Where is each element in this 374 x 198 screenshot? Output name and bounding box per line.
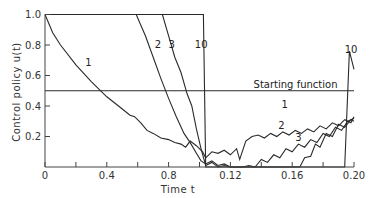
x-axis-title: Time t [160, 184, 196, 195]
y-tick-label: 0.6 [25, 70, 41, 81]
y-tick-label: 0.2 [25, 131, 41, 142]
y-tick-label: 1.0 [25, 9, 41, 20]
curve-label-3: 3 [169, 39, 175, 50]
curve-label-10: 10 [345, 44, 358, 55]
x-tick-label: 0.16 [281, 170, 303, 181]
y-tick-label: 0.8 [25, 40, 41, 51]
curve-label-1: 1 [85, 57, 91, 68]
axes: 00.40.80.120.160.200.20.40.60.81.0 [25, 9, 365, 181]
x-tick-label: 0.20 [343, 170, 365, 181]
y-tick-label: 0.4 [25, 101, 41, 112]
curve-label-1: 1 [281, 99, 287, 110]
starting-function-label: Starting function [254, 79, 338, 90]
y-axis-title: Control policy u(t) [11, 42, 22, 142]
curve-label-2: 2 [278, 120, 284, 131]
curve-label-2: 2 [155, 39, 161, 50]
x-tick-label: 0.8 [161, 170, 177, 181]
x-tick-label: 0.12 [219, 170, 241, 181]
x-tick-label: 0.4 [99, 170, 115, 181]
plot-area [45, 15, 354, 168]
curve-label-3: 3 [295, 132, 301, 143]
x-tick-label: 0 [42, 170, 48, 181]
curve-label-10: 10 [195, 39, 208, 50]
control-policy-chart: 00.40.80.120.160.200.20.40.60.81.0 Start… [0, 0, 374, 198]
